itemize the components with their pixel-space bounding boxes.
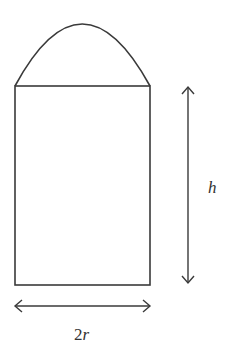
diagram-canvas — [0, 0, 230, 358]
body-rectangle — [15, 86, 150, 285]
width-label-variable: r — [83, 325, 90, 344]
height-label: h — [208, 178, 217, 198]
dome-arch — [15, 24, 150, 86]
width-label: 2r — [74, 325, 89, 345]
width-label-number: 2 — [74, 325, 83, 344]
width-arrow — [15, 300, 150, 312]
height-arrow — [182, 87, 194, 283]
